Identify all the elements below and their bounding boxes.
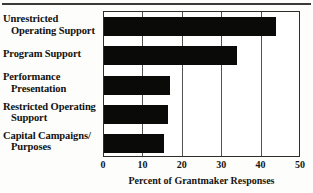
category-label-line1: Performance [0,71,99,83]
category-label-line1: Program Support [0,48,99,60]
x-tick-label: 10 [137,159,147,170]
category-label-line1: Restricted Operating [0,101,99,113]
x-tick-label: 0 [101,159,106,170]
bar [104,105,168,124]
x-tick-label: 20 [177,159,187,170]
x-tick-label: 50 [295,159,305,170]
category-label-line2: Purposes [0,141,99,153]
bar [104,46,237,65]
category-label: Capital Campaigns/Purposes [0,130,99,153]
bar [104,17,276,36]
category-label: PerformancePresentation [0,71,99,94]
x-tick-label: 40 [256,159,266,170]
category-label: Restricted OperatingSupport [0,101,99,124]
top-divider-rule [2,3,311,5]
x-tick-label: 30 [216,159,226,170]
category-label: UnrestrictedOperating Support [0,13,99,36]
category-label-line1: Unrestricted [0,13,99,25]
category-label: Program Support [0,48,99,60]
bar [104,134,164,153]
bar [104,76,170,95]
category-label-line2: Operating Support [0,25,99,37]
category-label-line1: Capital Campaigns/ [0,130,99,142]
bar-chart-figure: UnrestrictedOperating SupportProgram Sup… [0,0,313,193]
category-label-line2: Support [0,112,99,124]
x-axis-title: Percent of Grantmaker Responses [103,175,300,186]
category-axis-labels: UnrestrictedOperating SupportProgram Sup… [0,11,101,157]
category-label-line2: Presentation [0,83,99,95]
x-axis-tick-labels: 01020304050 [103,159,300,172]
plot-area [103,11,300,157]
